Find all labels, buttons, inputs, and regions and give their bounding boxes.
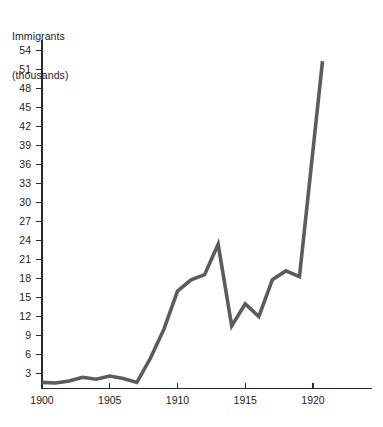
y-tick-label: 42 (19, 120, 31, 132)
x-tick-label: 1920 (301, 394, 325, 406)
x-tick-label: 1900 (30, 394, 54, 406)
y-tick-label: 33 (19, 177, 31, 189)
y-axis-title-line-1: Immigrants (12, 30, 69, 43)
y-axis-title-line-2: (thousands) (12, 69, 69, 82)
x-tick-label: 1905 (98, 394, 122, 406)
y-tick-label: 39 (19, 139, 31, 151)
y-tick-label: 12 (19, 310, 31, 322)
x-tick-label: 1910 (166, 394, 190, 406)
y-tick-label: 9 (25, 329, 31, 341)
y-tick-label: 27 (19, 215, 31, 227)
immigrants-series-line (42, 61, 322, 383)
y-tick-label: 3 (25, 367, 31, 379)
y-axis-title: Immigrants (thousands) (12, 4, 69, 108)
y-tick-label: 24 (19, 234, 31, 246)
y-tick-label: 21 (19, 253, 31, 265)
y-tick-label: 6 (25, 348, 31, 360)
y-tick-label: 15 (19, 291, 31, 303)
y-tick-label: 36 (19, 158, 31, 170)
immigrants-line-chart: Immigrants (thousands) 36912151821242730… (0, 0, 383, 427)
x-tick-label: 1915 (234, 394, 258, 406)
y-tick-label: 18 (19, 272, 31, 284)
x-axis-ticks: 19001905191019151920 (30, 383, 325, 406)
y-tick-label: 30 (19, 196, 31, 208)
